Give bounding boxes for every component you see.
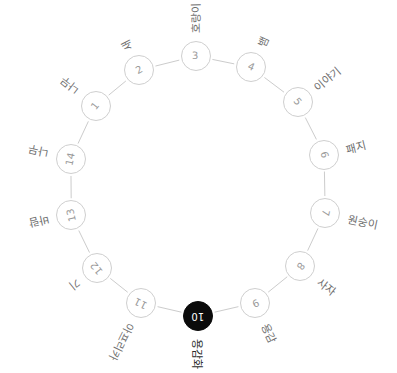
graph-node-number: 10 xyxy=(191,311,204,321)
graph-edge xyxy=(215,307,239,313)
graph-edge xyxy=(308,228,318,250)
graph-node-number: 12 xyxy=(89,259,105,276)
graph-node-number: 6 xyxy=(318,150,329,159)
graph-node-6[interactable]: 6 xyxy=(309,140,339,170)
graph-node-number: 8 xyxy=(294,260,306,271)
graph-edge xyxy=(158,307,182,313)
graph-node-number: 9 xyxy=(250,297,260,309)
graph-node-number: 14 xyxy=(65,151,78,166)
graph-edge xyxy=(212,59,234,63)
circular-graph-canvas: 1234567891011121314 나무새호랑이뱀이야기패지원숭이사자용감용… xyxy=(0,0,397,373)
graph-node-number: 1 xyxy=(90,100,102,111)
graph-node-number: 7 xyxy=(320,209,331,218)
graph-node-14[interactable]: 14 xyxy=(56,144,86,174)
graph-node-2[interactable]: 2 xyxy=(124,55,154,85)
graph-node-number: 2 xyxy=(134,64,144,76)
graph-node-number: 4 xyxy=(246,61,256,73)
graph-edge xyxy=(78,121,88,143)
graph-node-10[interactable]: 10 xyxy=(183,301,213,331)
graph-node-1[interactable]: 1 xyxy=(81,91,111,121)
graph-node-7[interactable]: 7 xyxy=(310,198,340,228)
graph-node-4[interactable]: 4 xyxy=(236,52,266,82)
graph-edge xyxy=(110,278,127,292)
graph-node-9[interactable]: 9 xyxy=(240,288,270,318)
graph-node-number: 11 xyxy=(133,295,149,310)
graph-edge xyxy=(79,231,90,253)
graph-edge xyxy=(155,60,179,66)
graph-edge xyxy=(268,277,287,292)
graph-node-5[interactable]: 5 xyxy=(283,87,313,117)
graph-edge xyxy=(109,81,126,95)
graph-edge xyxy=(264,77,284,92)
graph-node-11[interactable]: 11 xyxy=(126,288,156,318)
graph-node-12[interactable]: 12 xyxy=(82,253,112,283)
graph-edge xyxy=(305,118,316,140)
graph-node-3[interactable]: 3 xyxy=(181,41,211,71)
graph-node-number: 3 xyxy=(192,51,199,61)
graph-node-number: 13 xyxy=(65,208,78,223)
graph-node-number: 5 xyxy=(292,97,304,109)
